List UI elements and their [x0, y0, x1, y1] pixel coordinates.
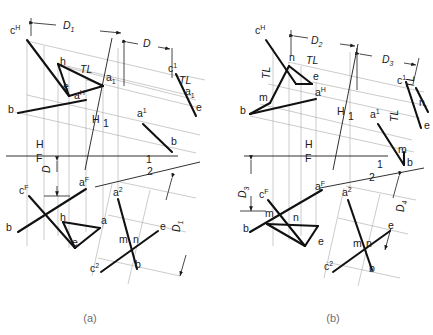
- point-label: e: [196, 101, 202, 113]
- point-label: m: [353, 237, 362, 249]
- point-label: 1: [146, 153, 152, 165]
- point-label: c1: [168, 62, 177, 74]
- panel-a: [6, 18, 205, 284]
- panel-a-aux2-view: [101, 199, 158, 272]
- panel-b-caption: (b): [326, 312, 339, 324]
- point-label: b: [6, 221, 12, 233]
- point-label: F: [305, 152, 311, 164]
- panel-a-front-view: [18, 189, 100, 248]
- point-label: 2: [147, 165, 153, 177]
- point-label: m: [265, 207, 274, 219]
- point-label: b: [135, 258, 141, 270]
- point-label: aF: [315, 180, 325, 192]
- point-label: m: [119, 233, 128, 245]
- point-label: 1: [348, 110, 354, 122]
- technical-drawing-svg: cHD1DhTLa1ec1TLa1eaHba1H1bHF12DcFaFa2hab…: [0, 0, 433, 335]
- point-label: D1: [63, 19, 75, 33]
- point-label: D: [143, 37, 151, 49]
- point-label: e: [318, 235, 324, 247]
- point-label: F: [36, 152, 42, 164]
- point-label: cH: [255, 24, 265, 36]
- point-label: n: [366, 237, 372, 249]
- point-label: 1: [103, 117, 109, 129]
- point-label: e: [160, 220, 166, 232]
- point-label: b: [171, 135, 177, 147]
- point-label: 1: [377, 158, 383, 170]
- point-label: D1: [170, 220, 184, 232]
- panel-a-caption: (a): [83, 312, 96, 324]
- point-label: b: [243, 222, 249, 234]
- point-label: b: [8, 103, 14, 115]
- panel-a-labels: cHD1DhTLa1ec1TLa1eaHba1H1bHF12DcFaFa2hab…: [6, 19, 202, 274]
- point-label: H: [305, 138, 313, 150]
- point-label: m: [398, 143, 407, 155]
- point-label: TL: [404, 76, 416, 88]
- panel-a-top-view: [18, 40, 103, 113]
- point-label: h: [60, 211, 66, 223]
- point-label: c2: [90, 262, 99, 274]
- point-label: n: [293, 211, 299, 223]
- point-label: D3: [236, 186, 250, 198]
- point-label: e: [63, 80, 69, 92]
- point-label: cH: [10, 24, 20, 36]
- point-label: n: [133, 233, 139, 245]
- point-label: TL: [306, 54, 318, 66]
- point-label: h: [60, 55, 66, 67]
- point-label: D: [40, 165, 52, 173]
- point-label: a2: [113, 186, 123, 198]
- point-label: e: [424, 119, 430, 131]
- point-label: 2: [369, 171, 375, 183]
- point-label: TL: [80, 63, 92, 75]
- point-label: H: [92, 113, 100, 125]
- point-label: D2: [311, 34, 323, 48]
- figure-canvas: cHD1DhTLa1ec1TLa1eaHba1H1bHF12DcFaFa2hab…: [0, 0, 433, 335]
- point-label: n: [419, 96, 425, 108]
- point-label: a1: [106, 71, 116, 85]
- point-label: D3: [382, 53, 394, 67]
- point-label: e: [72, 236, 78, 248]
- point-label: a1: [137, 107, 147, 119]
- point-label: aH: [315, 86, 326, 98]
- point-label: a: [101, 214, 107, 226]
- point-label: n: [289, 51, 295, 63]
- point-label: D4: [394, 200, 408, 212]
- point-label: a2: [342, 186, 352, 198]
- point-label: TL: [388, 110, 400, 122]
- point-label: cF: [259, 188, 269, 200]
- point-label: c2: [324, 260, 333, 272]
- point-label: aH: [74, 89, 85, 101]
- point-label: aF: [79, 176, 89, 188]
- point-label: m: [259, 91, 268, 103]
- panel-b-aux2-view: [333, 200, 390, 272]
- point-label: e: [313, 70, 319, 82]
- point-label: a1: [370, 108, 380, 120]
- point-label: b: [369, 262, 375, 274]
- point-label: b: [240, 104, 246, 116]
- point-label: H: [337, 105, 345, 117]
- point-label: e: [388, 219, 394, 231]
- point-label: H: [36, 138, 44, 150]
- point-label: a1: [185, 85, 195, 99]
- point-label: TL: [260, 67, 272, 79]
- point-label: b: [407, 156, 413, 168]
